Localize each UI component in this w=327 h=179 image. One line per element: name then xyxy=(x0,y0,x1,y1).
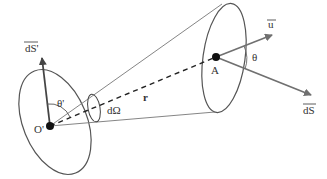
source-normal-arrow xyxy=(42,58,50,126)
target-surface-ellipse xyxy=(196,1,253,116)
label-angle-source: θ' xyxy=(57,97,64,109)
label-solid-angle: dΩ xyxy=(107,104,121,116)
label-target: A xyxy=(211,64,219,76)
origin-point xyxy=(46,122,54,130)
target-point xyxy=(212,53,220,61)
cone-upper-line xyxy=(50,4,222,126)
label-distance: r xyxy=(143,91,148,103)
source-surface-ellipse xyxy=(5,59,106,179)
label-angle-target: θ xyxy=(252,51,257,63)
label-normal-target: dS xyxy=(303,104,315,116)
cone-lower-line xyxy=(50,112,215,126)
label-origin: O' xyxy=(34,123,44,135)
solid-angle-diagram: O' A dS' θ' dΩ r u θ dS xyxy=(0,0,327,179)
target-normal-arrow xyxy=(216,57,311,95)
label-normal-source: dS' xyxy=(25,42,39,54)
